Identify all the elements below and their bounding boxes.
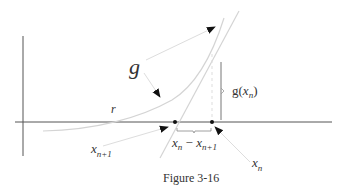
point-x-n-plus-1 — [173, 120, 177, 124]
g-pointer-to-tangent — [144, 73, 160, 97]
figure-caption: Figure 3-16 — [163, 171, 219, 185]
g-pointer-to-curve — [146, 27, 215, 60]
xn1-sub: n+1 — [97, 149, 112, 159]
label-g-of-xn: g(xn) — [232, 83, 257, 100]
diff-minus: − — [182, 135, 196, 150]
label-x-n: xn — [251, 155, 263, 173]
newton-method-diagram: g r g(xn) xn − xn+1 xn+1 xn Figure 3-16 — [0, 0, 342, 192]
xn-sub: n — [258, 163, 263, 173]
x-n-plus-1-pointer — [103, 127, 168, 146]
x-n-pointer — [215, 127, 250, 162]
label-x-n-plus-1: xn+1 — [90, 141, 112, 159]
g-xn-suffix: ) — [253, 83, 257, 98]
label-g: g — [129, 54, 140, 79]
point-x-n — [210, 120, 214, 124]
label-difference: xn − xn+1 — [171, 135, 217, 152]
diff-sub2: n+1 — [202, 142, 217, 152]
difference-brace — [177, 128, 211, 133]
label-r: r — [111, 102, 116, 116]
g-xn-prefix: g( — [232, 83, 243, 98]
